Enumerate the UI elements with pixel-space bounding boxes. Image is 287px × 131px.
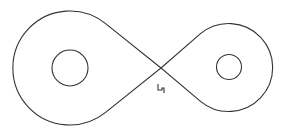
crossing-label: 4 <box>158 84 287 131</box>
right-inner-circle <box>217 55 242 80</box>
left-inner-circle <box>52 50 88 86</box>
label-glyph <box>158 84 164 93</box>
figure-eight-diagram: 4 <box>0 0 287 131</box>
left-lobe-outline <box>13 11 161 125</box>
